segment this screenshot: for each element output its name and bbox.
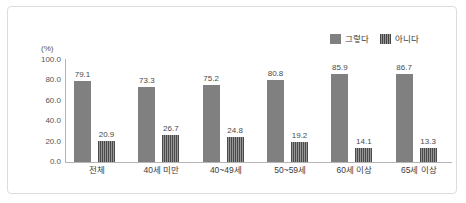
bar-series-no[interactable]: 14.1 bbox=[355, 148, 372, 162]
y-axis-tick-labels: 100.080.060.040.020.00.0 bbox=[8, 7, 61, 203]
bar-series-yes[interactable]: 85.9 bbox=[331, 74, 348, 162]
bar-value-label: 20.9 bbox=[99, 131, 115, 139]
legend-entry-series-0: 그렇다 bbox=[330, 34, 369, 44]
bar-series-yes[interactable]: 75.2 bbox=[203, 85, 220, 162]
bar-group: 86.713.365세 이상 bbox=[387, 60, 451, 162]
chart-legend: 그렇다 아니다 bbox=[330, 34, 419, 44]
y-axis-tick-label: 40.0 bbox=[45, 117, 61, 125]
bar-group: 85.914.160세 이상 bbox=[322, 60, 386, 162]
legend-swatch-icon-series-0 bbox=[330, 34, 341, 44]
x-axis-category-label: 40세 미만 bbox=[129, 166, 193, 175]
bar-value-label: 24.8 bbox=[227, 127, 243, 135]
y-axis-tick-label: 100.0 bbox=[41, 56, 61, 64]
bar-series-yes[interactable]: 79.1 bbox=[74, 81, 91, 162]
bar-series-no[interactable]: 26.7 bbox=[162, 135, 179, 162]
x-axis-category-label: 전체 bbox=[65, 166, 129, 175]
bar-group: 80.819.250~59세 bbox=[258, 60, 322, 162]
bar-series-no[interactable]: 13.3 bbox=[420, 148, 437, 162]
y-axis-tick-label: 20.0 bbox=[45, 138, 61, 146]
legend-label-series-1: 아니다 bbox=[395, 35, 419, 44]
bar-group: 75.224.840~49세 bbox=[194, 60, 258, 162]
x-axis-category-label: 60세 이상 bbox=[322, 166, 386, 175]
bar-series-yes[interactable]: 73.3 bbox=[138, 87, 155, 162]
x-axis-category-label: 50~59세 bbox=[258, 166, 322, 175]
bar-value-label: 79.1 bbox=[75, 71, 91, 79]
bar-series-yes[interactable]: 86.7 bbox=[396, 74, 413, 162]
y-axis-tick-label: 80.0 bbox=[45, 76, 61, 84]
bar-value-label: 73.3 bbox=[139, 77, 155, 85]
chart-frame: 그렇다 아니다 (%) 100.080.060.040.020.00.0 79.… bbox=[7, 6, 457, 194]
bar-value-label: 26.7 bbox=[163, 125, 179, 133]
bar-group: 79.120.9전체 bbox=[65, 60, 129, 162]
legend-swatch-icon-series-1 bbox=[380, 34, 391, 44]
bar-value-label: 14.1 bbox=[356, 138, 372, 146]
bar-series-no[interactable]: 20.9 bbox=[98, 141, 115, 162]
bar-series-no[interactable]: 24.8 bbox=[227, 137, 244, 162]
y-axis-tick-label: 0.0 bbox=[50, 158, 61, 166]
bar-value-label: 86.7 bbox=[396, 64, 412, 72]
bar-series-yes[interactable]: 80.8 bbox=[267, 80, 284, 162]
x-axis-line bbox=[65, 162, 452, 163]
legend-label-series-0: 그렇다 bbox=[345, 35, 369, 44]
bar-value-label: 85.9 bbox=[332, 64, 348, 72]
x-axis-category-label: 40~49세 bbox=[194, 166, 258, 175]
bar-value-label: 19.2 bbox=[292, 132, 308, 140]
bar-series-no[interactable]: 19.2 bbox=[291, 142, 308, 162]
y-axis-tick-label: 60.0 bbox=[45, 97, 61, 105]
bar-group: 73.326.740세 미만 bbox=[129, 60, 193, 162]
plot-area: 79.120.9전체73.326.740세 미만75.224.840~49세80… bbox=[65, 60, 451, 162]
bar-value-label: 80.8 bbox=[268, 70, 284, 78]
legend-entry-series-1: 아니다 bbox=[380, 34, 419, 44]
bar-value-label: 13.3 bbox=[420, 138, 436, 146]
x-axis-category-label: 65세 이상 bbox=[387, 166, 451, 175]
bar-value-label: 75.2 bbox=[203, 75, 219, 83]
